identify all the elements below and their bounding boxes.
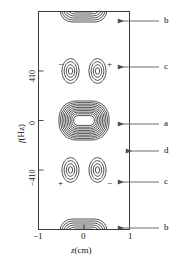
y-axis-label-unit: (Hz)	[16, 124, 26, 141]
sign-annotation-upper-right: +	[107, 59, 112, 69]
callout-label-c-lower: c	[164, 176, 168, 186]
callout-arrows	[118, 21, 159, 228]
callout-label-c-upper: c	[164, 61, 168, 71]
callout-label-d: d	[164, 145, 169, 155]
x-tick-label-minus1: −1	[33, 231, 43, 241]
plot-frame	[39, 12, 130, 230]
y-axis-ticks	[39, 71, 44, 170]
contour-group-c-lower-right	[89, 158, 106, 183]
x-tick-label-1: 1	[128, 231, 133, 241]
x-axis-label: z(cm)	[71, 245, 92, 255]
sign-annotation-upper-left: −	[58, 59, 63, 69]
contour-group-c-upper-right	[89, 59, 106, 84]
contour-figure	[0, 0, 178, 262]
callout-label-a: a	[164, 118, 168, 128]
y-axis-label-symbol: f	[16, 140, 26, 143]
x-axis-label-unit: (cm)	[75, 245, 92, 255]
sign-annotation-lower-left: +	[58, 178, 63, 188]
sign-annotation-lower-right: −	[107, 178, 112, 188]
callout-label-b-bottom: b	[164, 222, 169, 232]
contour-group-c-upper-left	[62, 59, 79, 84]
contour-group-c-lower-left	[62, 158, 79, 183]
contour-group-a-center	[59, 101, 109, 140]
x-tick-label-0: 0	[81, 231, 86, 241]
contour-lines	[59, 0, 109, 255]
callout-label-b-top: b	[164, 15, 169, 25]
